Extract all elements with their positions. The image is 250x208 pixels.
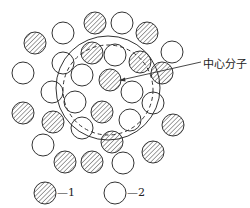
- molecule-type-1: [99, 69, 121, 91]
- molecule-type-2: [142, 92, 164, 114]
- molecule-type-2: [119, 109, 141, 131]
- molecule-type-1: [81, 151, 103, 173]
- legend-label-1: —1: [57, 186, 75, 199]
- legend-hatched-circle: [34, 182, 56, 204]
- molecule-type-2: [52, 52, 74, 74]
- molecule-type-2: [41, 81, 63, 103]
- molecule-type-2: [71, 64, 93, 86]
- molecule-type-1: [162, 114, 184, 136]
- molecule-type-1: [84, 12, 106, 34]
- molecule-type-1: [12, 102, 34, 124]
- molecule-type-2: [161, 41, 183, 63]
- molecule-type-2: [121, 81, 143, 103]
- molecule-type-2: [112, 152, 134, 174]
- central-molecule-label: 中心分子: [203, 55, 247, 71]
- molecule-type-2: [12, 62, 34, 84]
- molecule-type-1: [24, 32, 46, 54]
- molecule-type-2: [111, 12, 133, 34]
- molecular-structure-diagram: [0, 0, 250, 208]
- molecules-group: [12, 12, 184, 174]
- molecule-type-2: [52, 22, 74, 44]
- molecule-type-1: [42, 111, 64, 133]
- molecule-type-1: [142, 141, 164, 163]
- legend-label-2: —2: [127, 186, 145, 199]
- molecule-type-2: [32, 134, 54, 156]
- molecule-type-1: [136, 22, 158, 44]
- molecule-type-1: [91, 101, 113, 123]
- molecule-type-1: [54, 151, 76, 173]
- legend-open-circle: [104, 182, 126, 204]
- molecule-type-1: [101, 131, 123, 153]
